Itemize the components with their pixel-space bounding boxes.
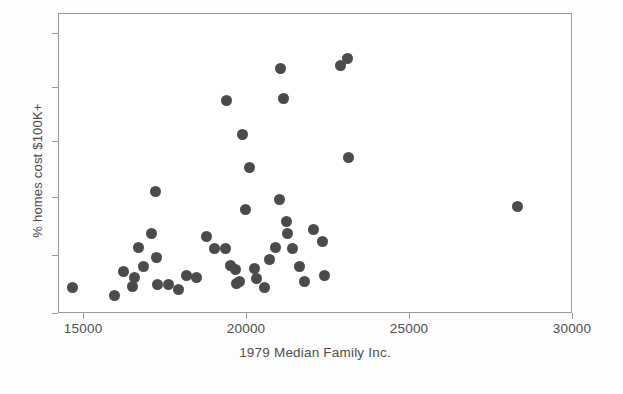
- x-axis-tick-label: 20000: [227, 321, 266, 336]
- y-axis-label: % homes cost $100K+: [30, 71, 45, 271]
- data-point: [173, 284, 184, 295]
- data-point: [278, 93, 289, 104]
- data-point: [282, 228, 293, 239]
- x-axis-tick-label: 30000: [553, 321, 592, 336]
- data-point: [308, 224, 319, 235]
- data-point: [109, 290, 120, 301]
- data-point: [274, 194, 285, 205]
- data-point: [152, 279, 163, 290]
- y-axis-tick: [52, 197, 58, 198]
- data-point: [118, 266, 129, 277]
- data-point: [138, 261, 149, 272]
- data-point: [240, 204, 251, 215]
- data-point: [270, 242, 281, 253]
- x-axis-label: 1979 Median Family Inc.: [58, 345, 572, 360]
- y-axis-tick: [52, 313, 58, 314]
- x-axis-tick-label: 25000: [390, 321, 429, 336]
- data-point: [512, 201, 523, 212]
- data-point: [230, 264, 241, 275]
- data-point: [342, 53, 353, 64]
- data-point: [294, 261, 305, 272]
- x-axis-tick-label: 15000: [64, 321, 103, 336]
- data-point: [299, 276, 310, 287]
- data-point: [220, 243, 231, 254]
- y-axis-tick: [52, 87, 58, 88]
- data-point: [343, 152, 354, 163]
- data-point: [287, 243, 298, 254]
- data-points-layer: [59, 14, 571, 312]
- data-point: [191, 272, 202, 283]
- y-axis-tick: [52, 255, 58, 256]
- y-axis-tick: [52, 141, 58, 142]
- data-point: [275, 63, 286, 74]
- data-point: [201, 231, 212, 242]
- data-point: [127, 281, 138, 292]
- data-point: [150, 186, 161, 197]
- x-axis-tick: [246, 313, 247, 319]
- data-point: [151, 252, 162, 263]
- data-point: [234, 276, 245, 287]
- data-point: [67, 282, 78, 293]
- data-point: [133, 242, 144, 253]
- x-axis-tick: [83, 313, 84, 319]
- data-point: [281, 216, 292, 227]
- data-point: [259, 282, 270, 293]
- data-point: [249, 263, 260, 274]
- data-point: [319, 270, 330, 281]
- data-point: [209, 243, 220, 254]
- data-point: [221, 95, 232, 106]
- data-point: [146, 228, 157, 239]
- data-point: [244, 162, 255, 173]
- scatter-plot-figure: 15000200002500030000 1979 Median Family …: [0, 0, 623, 394]
- y-axis-tick: [52, 33, 58, 34]
- data-point: [181, 270, 192, 281]
- x-axis-tick: [409, 313, 410, 319]
- x-axis-tick: [572, 313, 573, 319]
- plot-area: [58, 13, 572, 313]
- data-point: [237, 129, 248, 140]
- data-point: [264, 254, 275, 265]
- data-point: [317, 236, 328, 247]
